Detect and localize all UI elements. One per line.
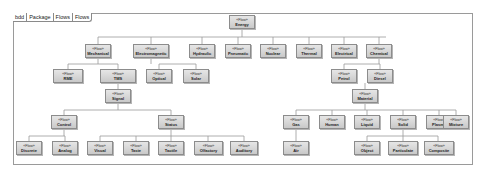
block-name: Electrical xyxy=(335,51,353,56)
block-name: Status xyxy=(165,122,177,127)
block-nuclear[interactable]: «Flow» Nuclear xyxy=(260,44,286,58)
block-discrete[interactable]: «Flow» Discrete xyxy=(16,141,42,155)
block-name: Particulate xyxy=(393,148,413,153)
block-name: Tactile xyxy=(165,148,177,153)
block-mixture[interactable]: «Flow» Mixture xyxy=(443,115,469,129)
block-name: Nuclear xyxy=(266,51,281,56)
block-name: Signal xyxy=(112,96,124,101)
block-name: Analog xyxy=(58,148,72,153)
block-name: Composite xyxy=(429,148,450,153)
block-name: Olfactory xyxy=(200,148,218,153)
block-solid[interactable]: «Flow» Solid xyxy=(390,115,416,129)
block-name: Air xyxy=(293,148,299,153)
block-name: Petrol xyxy=(338,76,349,81)
block-pneumatic[interactable]: «Flow» Pneumatic xyxy=(225,44,251,58)
block-diesel[interactable]: «Flow» Diesel xyxy=(367,69,393,83)
block-taste[interactable]: «Flow» Taste xyxy=(123,141,149,155)
block-hydraulic[interactable]: «Flow» Hydraulic xyxy=(189,44,215,58)
block-olfactory[interactable]: «Flow» Olfactory xyxy=(194,141,223,155)
block-petrol[interactable]: «Flow» Petrol xyxy=(331,69,357,83)
block-analog[interactable]: «Flow» Analog xyxy=(52,141,78,155)
block-name: Taste xyxy=(131,148,141,153)
block-electrical[interactable]: «Flow» Electrical xyxy=(331,44,357,58)
block-thermal[interactable]: «Flow» Thermal xyxy=(296,44,322,58)
block-particulate[interactable]: «Flow» Particulate xyxy=(388,141,418,155)
block-name: Mechanical xyxy=(87,51,109,56)
block-liquid[interactable]: «Flow» Liquid xyxy=(354,115,380,129)
block-name: Gas xyxy=(292,122,300,127)
block-object[interactable]: «Flow» Object xyxy=(354,141,380,155)
block-name: Optical xyxy=(152,76,166,81)
block-name: Auditory xyxy=(236,148,252,153)
block-gas[interactable]: «Flow» Gas xyxy=(283,115,309,129)
block-name: Material xyxy=(357,96,372,101)
block-auditory[interactable]: «Flow» Auditory xyxy=(230,141,258,155)
block-name: TMS xyxy=(114,76,122,81)
block-human[interactable]: «Flow» Human xyxy=(319,115,345,129)
block-name: Liquid xyxy=(361,122,373,127)
block-name: Chemical xyxy=(370,51,388,56)
block-name: Diesel xyxy=(374,76,386,81)
block-name: Visual xyxy=(94,148,106,153)
block-name: Mixture xyxy=(449,122,463,127)
block-material[interactable]: «Flow» Material xyxy=(352,89,378,103)
block-name: Solid xyxy=(398,122,408,127)
block-name: Electromagnetic xyxy=(135,51,166,56)
block-mechanical[interactable]: «Flow» Mechanical xyxy=(85,44,111,58)
block-energy[interactable]: «Flow» Energy xyxy=(229,15,255,29)
block-name: RME xyxy=(64,76,73,81)
block-name: Solar xyxy=(191,76,201,81)
block-composite[interactable]: «Flow» Composite xyxy=(424,141,454,155)
block-name: Pneumatic xyxy=(228,51,248,56)
block-air[interactable]: «Flow» Air xyxy=(283,141,309,155)
block-control[interactable]: «Flow» Control xyxy=(51,115,77,129)
block-solar[interactable]: «Flow» Solar xyxy=(183,69,209,83)
block-name: Hydraulic xyxy=(193,51,211,56)
block-signal[interactable]: «Flow» Signal xyxy=(105,89,131,103)
block-name: Energy xyxy=(235,22,249,27)
block-electromagnetic[interactable]: «Flow» Electromagnetic xyxy=(133,44,169,58)
block-name: Control xyxy=(57,122,71,127)
block-name: Human xyxy=(325,122,339,127)
block-tactile[interactable]: «Flow» Tactile xyxy=(158,141,184,155)
block-name: Object xyxy=(361,148,373,153)
block-rme[interactable]: «Flow» RME xyxy=(53,69,83,83)
block-name: Discrete xyxy=(21,148,37,153)
block-chemical[interactable]: «Flow» Chemical xyxy=(366,44,392,58)
block-tms[interactable]: «Flow» TMS xyxy=(100,69,136,83)
block-status[interactable]: «Flow» Status xyxy=(158,115,184,129)
block-name: Thermal xyxy=(301,51,317,56)
block-visual[interactable]: «Flow» Visual xyxy=(87,141,113,155)
block-optical[interactable]: «Flow» Optical xyxy=(146,69,172,83)
